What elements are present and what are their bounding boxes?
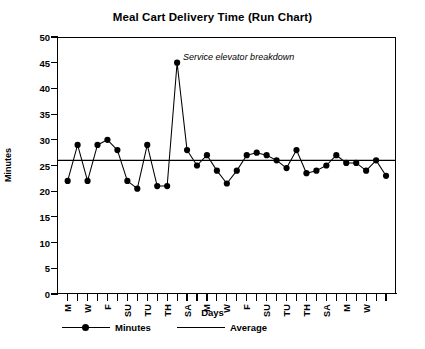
x-axis-tick [306,294,307,301]
x-axis-tick-label: SU [123,304,133,317]
y-axis-tick-label: 30 [4,134,50,145]
x-axis-tick-label: W [362,304,372,313]
chart-legend: Minutes Average [57,322,307,342]
plot-area [57,37,396,294]
x-axis-tick-label: TH [302,304,312,316]
x-axis-tick [117,294,118,301]
legend-label-minutes: Minutes [115,322,151,333]
x-axis-tick [177,294,178,301]
x-axis-tick-label: W [83,304,93,313]
x-axis-tick [376,294,377,301]
y-axis-tick-label: 20 [4,186,50,197]
x-axis-tick-label: W [222,304,232,313]
x-axis-tick-label: F [103,304,113,310]
x-axis-tick [107,294,108,301]
x-axis-tick [226,294,227,301]
x-axis-tick [296,294,297,301]
y-axis-tick-label: 45 [4,57,50,68]
x-axis-tick-label: M [63,304,73,312]
legend-item-average: Average [177,322,267,333]
x-axis-tick [87,294,88,301]
x-axis-tick [147,294,148,301]
y-axis-tick [51,165,58,166]
x-axis-tick-label: M [342,304,352,312]
x-axis-tick [276,294,277,301]
y-axis-tick [51,139,58,140]
x-axis-tick [356,294,357,301]
legend-item-minutes: Minutes [62,322,151,333]
x-axis-tick-label: SA [322,304,332,317]
x-axis-tick [157,294,158,301]
x-axis-tick [67,294,68,301]
x-axis-tick [286,294,287,301]
y-axis-tick [51,242,58,243]
legend-line-icon [177,323,225,333]
x-axis-tick-label: TU [143,304,153,316]
y-axis-tick-label: 35 [4,109,50,120]
y-axis-tick-label: 5 [4,263,50,274]
x-axis-tick [186,294,187,301]
y-axis-tick [51,216,58,217]
x-axis-tick [256,294,257,301]
x-axis-tick-label: M [202,304,212,312]
y-axis-title: Minutes [3,148,13,182]
x-axis-tick [77,294,78,301]
y-axis-tick-label: 15 [4,211,50,222]
x-axis-tick [316,294,317,301]
x-axis-tick [336,294,337,301]
x-axis-tick [196,294,197,301]
y-axis-tick [51,62,58,63]
chart-title: Meal Cart Delivery Time (Run Chart) [0,11,425,23]
y-axis-tick [51,191,58,192]
x-axis-tick [167,294,168,301]
y-axis-tick [51,114,58,115]
x-axis-tick [216,294,217,301]
x-axis-tick [366,294,367,301]
x-axis-tick [326,294,327,301]
y-axis-tick-label: 40 [4,83,50,94]
legend-label-average: Average [230,322,267,333]
x-axis-tick [137,294,138,301]
x-axis-tick [346,294,347,301]
x-axis-tick-label: TU [282,304,292,316]
y-axis-tick [51,268,58,269]
x-axis-tick [206,294,207,301]
y-axis-tick-label: 50 [4,32,50,43]
y-axis-tick [51,36,58,37]
x-axis-tick [385,294,386,301]
y-axis-tick-label: 0 [4,289,50,300]
x-axis-tick [127,294,128,301]
x-axis-tick [246,294,247,301]
x-axis-tick-label: SA [183,304,193,317]
x-axis-tick [97,294,98,301]
x-axis-tick [266,294,267,301]
x-axis-tick-label: F [242,304,252,310]
legend-line-marker-icon [62,323,110,333]
y-axis-tick [51,88,58,89]
run-chart-figure: Meal Cart Delivery Time (Run Chart) 0510… [0,0,425,349]
x-axis-tick-label: TH [163,304,173,316]
annotation-service-elevator-breakdown: Service elevator breakdown [183,52,294,62]
y-axis-tick-label: 10 [4,237,50,248]
y-axis-tick [51,293,58,294]
x-axis-tick [236,294,237,301]
x-axis-tick-label: SU [262,304,272,317]
